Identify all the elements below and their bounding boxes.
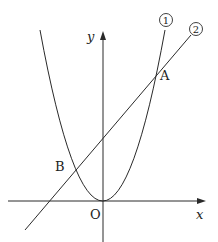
curve-1-marker: 1	[160, 14, 173, 27]
point-b-label: B	[55, 159, 65, 174]
coordinate-diagram: 1 2 y x O A B	[0, 0, 218, 242]
point-a-label: A	[159, 68, 170, 83]
y-axis-arrow-icon	[100, 31, 106, 40]
x-axis-label: x	[196, 207, 204, 222]
x-axis-arrow-icon	[197, 198, 206, 204]
curve-2-marker: 2	[190, 23, 203, 36]
curve-1-marker-label: 1	[163, 15, 169, 26]
x-axis	[8, 198, 206, 204]
curve-2-marker-label: 2	[193, 24, 199, 35]
y-axis-label: y	[86, 29, 95, 44]
origin-label: O	[90, 207, 101, 222]
